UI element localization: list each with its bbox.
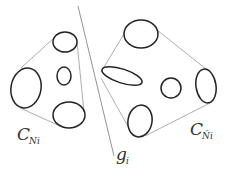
ellipse: [53, 102, 85, 128]
left-group-ellipses: [8, 32, 85, 128]
left-group-label: CNi: [17, 126, 41, 143]
separator-line: [78, 6, 114, 156]
ellipse: [57, 67, 71, 85]
ellipse: [100, 63, 144, 89]
diagram-canvas: [0, 0, 228, 173]
separator-label: gi: [116, 146, 130, 163]
ellipse: [8, 66, 44, 111]
right-group-label: CÑi: [190, 121, 214, 138]
ellipse: [124, 20, 158, 48]
left-convex-hull: [20, 37, 84, 126]
ellipse: [194, 68, 219, 104]
ellipse: [161, 78, 181, 98]
ellipse: [53, 32, 77, 52]
